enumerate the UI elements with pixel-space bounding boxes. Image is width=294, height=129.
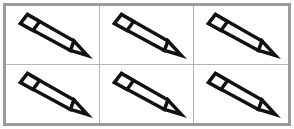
grid-cell[interactable] (100, 65, 194, 124)
crayon-glyph (106, 9, 188, 61)
crayon-grid (6, 6, 288, 123)
crayon-icon (6, 6, 99, 64)
crayon-glyph (200, 68, 282, 120)
grid-cell[interactable] (100, 6, 194, 65)
crayon-wrapper-band (209, 14, 228, 30)
crayon-tip-shape (259, 41, 276, 56)
crayon-tip-shape (70, 100, 87, 115)
crayon-glyph (200, 9, 282, 61)
grid-cell[interactable] (6, 65, 100, 124)
crayon-wrapper-band (20, 14, 39, 30)
crayon-wrapper-band (114, 73, 133, 89)
crayon-tip-shape (164, 100, 181, 115)
crayon-glyph (106, 68, 188, 120)
crayon-icon (100, 65, 193, 124)
crayon-icon (6, 65, 99, 124)
crayon-wrapper-band (20, 73, 39, 89)
crayon-tip-shape (70, 41, 87, 56)
grid-cell[interactable] (194, 6, 288, 65)
crayon-tip-shape (259, 100, 276, 115)
crayon-icon (100, 6, 193, 64)
crayon-icon (194, 65, 288, 124)
grid-cell[interactable] (194, 65, 288, 124)
grid-cell[interactable] (6, 6, 100, 65)
crayon-tip-shape (164, 41, 181, 56)
crayon-glyph (12, 68, 94, 120)
crayon-grid-frame (3, 3, 291, 126)
crayon-glyph (12, 9, 94, 61)
crayon-icon (194, 6, 288, 64)
screenshot-canvas (0, 0, 294, 129)
crayon-wrapper-band (114, 14, 133, 30)
crayon-wrapper-band (209, 73, 228, 89)
